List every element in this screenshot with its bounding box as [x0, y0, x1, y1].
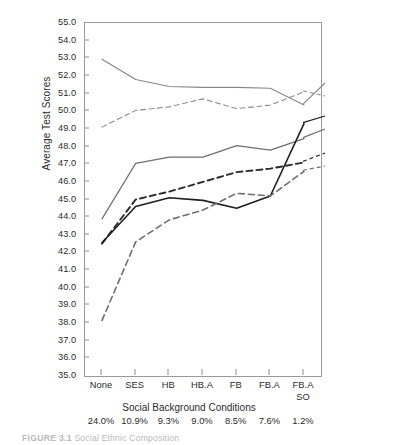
y-tick-label: 36.0 — [0, 352, 82, 362]
x-tick-label: HB — [162, 379, 175, 391]
y-tick-mark — [84, 145, 89, 146]
line-chart-svg — [85, 23, 321, 376]
x-tick-label-main: HB.A — [191, 379, 213, 390]
y-tick-mark — [84, 322, 89, 323]
x-percentage-label: 9.0% — [191, 415, 212, 426]
x-tick-label: SES — [125, 379, 144, 391]
y-tick-mark — [84, 304, 89, 305]
series-line-white — [102, 92, 304, 127]
y-tick-mark — [84, 339, 89, 340]
x-tick-mark — [235, 369, 236, 375]
y-tick-mark — [84, 286, 89, 287]
caption-figure-number: FIGURE 3.1 — [22, 433, 72, 443]
x-tick-label-sub: SO — [293, 391, 314, 403]
y-tick-label: 46.0 — [0, 176, 82, 186]
y-tick-label: 47.0 — [0, 158, 82, 168]
y-tick-mark — [84, 74, 89, 75]
y-tick-mark — [84, 57, 89, 58]
x-tick-mark — [269, 369, 270, 375]
y-tick-label: 54.0 — [0, 35, 82, 45]
y-tick-label: 38.0 — [0, 317, 82, 327]
y-tick-mark — [84, 198, 89, 199]
x-percentage-label: 10.9% — [121, 415, 148, 426]
x-tick-mark — [303, 369, 304, 375]
x-tick-label: FB — [230, 379, 242, 391]
y-tick-mark — [84, 269, 89, 270]
y-tick-label: 40.0 — [0, 282, 82, 292]
x-tick-label-main: None — [90, 379, 112, 390]
y-tick-label: 55.0 — [0, 17, 82, 27]
y-tick-label: 43.0 — [0, 229, 82, 239]
y-tick-mark — [84, 163, 89, 164]
x-percentage-label: 24.0% — [88, 415, 115, 426]
x-tick-label: HB.A — [191, 379, 213, 391]
y-tick-mark — [84, 216, 89, 217]
series-line-american-indian — [102, 139, 304, 219]
x-tick-label-main: FB — [230, 379, 242, 390]
caption-text: Social Ethnic Composition — [74, 433, 179, 443]
y-tick-label: 42.0 — [0, 246, 82, 256]
x-tick-label: FB.ASO — [293, 379, 314, 402]
y-tick-mark — [84, 251, 89, 252]
y-tick-mark — [84, 357, 89, 358]
y-tick-mark — [84, 127, 89, 128]
series-line-black — [102, 124, 304, 243]
x-axis-title: Social Background Conditions — [84, 402, 294, 413]
x-tick-mark — [101, 369, 102, 375]
x-tick-label-main: FB.A — [293, 379, 314, 390]
x-percentage-label: 8.5% — [225, 415, 246, 426]
y-tick-label: 37.0 — [0, 335, 82, 345]
y-tick-mark — [84, 92, 89, 93]
x-tick-mark — [134, 369, 135, 375]
x-percentage-label: 7.6% — [259, 415, 280, 426]
x-tick-label-main: HB — [162, 379, 175, 390]
y-tick-label: 41.0 — [0, 264, 82, 274]
x-percentage-label: 1.2% — [292, 415, 313, 426]
series-line-puerto-rican — [102, 171, 304, 320]
y-tick-label: 48.0 — [0, 141, 82, 151]
x-tick-mark — [168, 369, 169, 375]
x-tick-label-main: SES — [125, 379, 144, 390]
x-tick-mark — [202, 369, 203, 375]
y-tick-mark — [84, 180, 89, 181]
y-tick-label: 44.0 — [0, 211, 82, 221]
y-tick-label: 51.0 — [0, 88, 82, 98]
y-tick-label: 35.0 — [0, 370, 82, 380]
y-tick-label: 52.0 — [0, 70, 82, 80]
x-tick-label: FB.A — [259, 379, 280, 391]
series-line-mexican — [102, 162, 304, 243]
y-tick-label: 50.0 — [0, 105, 82, 115]
y-tick-mark — [84, 39, 89, 40]
y-tick-mark — [84, 110, 89, 111]
figure-caption: FIGURE 3.1 Social Ethnic Composition — [22, 433, 179, 443]
plot-area — [84, 22, 322, 377]
x-tick-label: None — [90, 379, 112, 391]
y-tick-mark — [84, 233, 89, 234]
figure-container: Average Test Scores 55.054.053.052.051.0… — [0, 0, 417, 445]
y-tick-label: 53.0 — [0, 52, 82, 62]
y-tick-label: 45.0 — [0, 194, 82, 204]
x-percentage-label: 9.3% — [158, 415, 179, 426]
x-tick-label-main: FB.A — [259, 379, 280, 390]
y-tick-label: 39.0 — [0, 299, 82, 309]
series-line-asian — [102, 59, 304, 105]
y-tick-label: 49.0 — [0, 123, 82, 133]
